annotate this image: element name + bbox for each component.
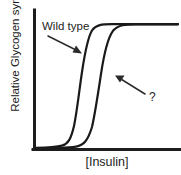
wild-type-annotation [48,36,82,54]
wild-type-arrow-shaft [48,36,77,51]
y-axis-label: Relative Glycogen syn. [9,0,21,123]
wild-type-curve-label: Wild type [42,20,89,32]
unknown-annotation: ? [115,76,156,105]
unknown-arrow-head [115,76,125,83]
unknown-arrow-shaft [120,79,145,95]
glycogen-synthesis-dose-response-figure: · · · · ? Wild type Relative Glycogen sy… [0,0,181,175]
chart-plot-area: ? Wild type [0,0,181,175]
unknown-curve-label: ? [149,90,156,104]
curve-unknown [36,24,178,148]
x-axis-label: [Insulin] [34,155,180,169]
